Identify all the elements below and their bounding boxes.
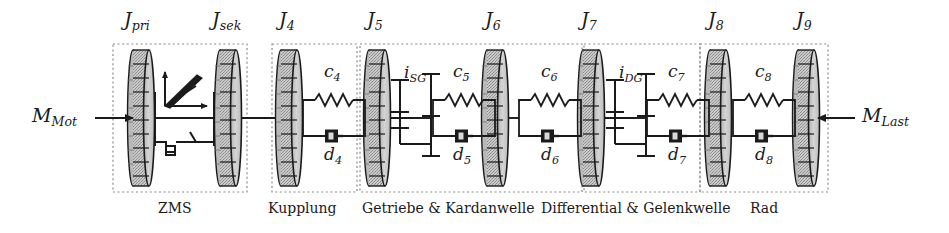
label-inertia-J-9: J9 xyxy=(796,8,812,30)
spring-damper-c8-d8 xyxy=(733,94,795,143)
zms-nonlinear-characteristic-symbol xyxy=(155,72,214,155)
spring-damper-c4-d4 xyxy=(303,94,365,143)
inertia-disc-J-sek xyxy=(215,50,242,186)
label-damping-d7: d7 xyxy=(668,144,686,164)
label-stiffness-c8: c8 xyxy=(755,61,772,81)
label-inertia-J-7: J7 xyxy=(581,8,597,30)
gear-ratio-symbol-i-SG xyxy=(391,74,440,156)
label-gear-ratio-i-SG: iSG xyxy=(404,62,426,82)
label-inertia-J-5: J5 xyxy=(367,8,383,30)
spring-damper-c6-d6 xyxy=(519,94,581,143)
group-label-differential: Differential & Gelenkwelle xyxy=(541,200,730,216)
group-label-zms: ZMS xyxy=(158,200,192,216)
label-inertia-J-4: J4 xyxy=(279,8,295,30)
group-label-getriebe: Getriebe & Kardanwelle xyxy=(362,200,535,216)
label-damping-d6: d6 xyxy=(541,144,559,164)
label-torque-output: MLast xyxy=(862,104,909,126)
label-stiffness-c6: c6 xyxy=(541,61,558,81)
inertia-discs xyxy=(128,50,820,186)
gear-ratio-symbol-i-DG xyxy=(606,74,655,156)
group-label-kupplung: Kupplung xyxy=(268,200,337,216)
label-torque-input: MMot xyxy=(32,104,77,126)
label-inertia-J-sek: Jsek xyxy=(212,8,241,30)
inertia-disc-J-4 xyxy=(276,50,303,186)
label-damping-d8: d8 xyxy=(755,144,773,164)
gear-ratio-symbols xyxy=(391,74,655,156)
inertia-disc-J-9 xyxy=(793,50,820,186)
group-label-rad: Rad xyxy=(750,200,778,216)
label-inertia-J-pri: Jpri xyxy=(124,8,150,30)
label-damping-d5: d5 xyxy=(453,144,471,164)
label-stiffness-c5: c5 xyxy=(453,61,470,81)
label-damping-d4: d4 xyxy=(324,144,342,164)
drivetrain-model-figure: Jpri Jsek J4 J5 J6 J7 J8 J9 c4 c5 c6 c7 … xyxy=(0,0,949,233)
diagram-canvas xyxy=(0,0,949,233)
label-stiffness-c7: c7 xyxy=(668,61,685,81)
label-stiffness-c4: c4 xyxy=(324,61,341,81)
label-inertia-J-8: J8 xyxy=(708,8,724,30)
inertia-disc-J-5 xyxy=(364,50,391,186)
label-inertia-J-6: J6 xyxy=(485,8,501,30)
label-gear-ratio-i-DG: iDG xyxy=(619,62,643,82)
